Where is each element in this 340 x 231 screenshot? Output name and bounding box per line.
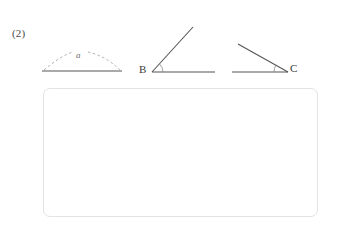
dashed-arc-left-part xyxy=(44,52,73,70)
dashed-arc-right-part xyxy=(88,52,120,70)
figure-angle-c xyxy=(232,44,288,72)
angle-b-slanted-ray xyxy=(152,27,193,72)
arc-label-a: a xyxy=(76,50,81,60)
figure-angle-b xyxy=(152,27,215,72)
angle-c-slanted-ray xyxy=(238,44,288,72)
worksheet-page: (2) a B C xyxy=(0,0,340,231)
vertex-label-b: B xyxy=(139,63,146,75)
angle-c-arc-mark xyxy=(274,65,276,72)
angle-b-arc-mark xyxy=(160,64,163,72)
figure-segment-with-dashed-arc xyxy=(42,52,122,71)
answer-area[interactable] xyxy=(43,88,318,217)
vertex-label-c: C xyxy=(290,62,297,74)
